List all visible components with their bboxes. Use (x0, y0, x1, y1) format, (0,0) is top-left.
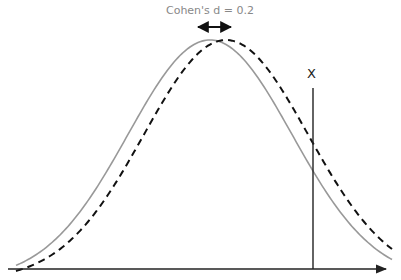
distribution-diagram (0, 0, 401, 280)
dashed-distribution-curve (16, 40, 392, 271)
solid-distribution-curve (16, 40, 392, 265)
